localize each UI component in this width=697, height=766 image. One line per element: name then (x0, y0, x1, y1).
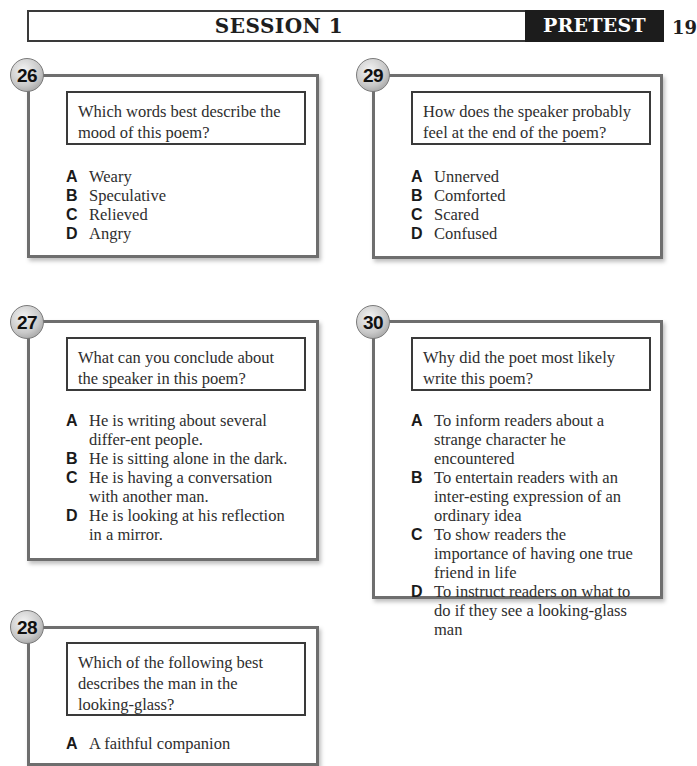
option-letter: B (66, 186, 78, 205)
answer-option-a[interactable]: AWeary (66, 167, 306, 186)
question-number-badge-30: 30 (356, 305, 390, 339)
option-letter: D (66, 506, 78, 525)
answer-options: AWeary BSpeculative CRelieved DAngry (66, 167, 306, 243)
question-prompt: What can you conclude about the speaker … (66, 337, 306, 391)
option-text: Speculative (89, 186, 166, 205)
option-letter: B (66, 449, 78, 468)
option-text: He is writing about several differ-ent p… (89, 411, 267, 449)
page-number: 19 (672, 17, 697, 38)
question-number-badge-29: 29 (356, 58, 390, 92)
option-letter: C (411, 525, 423, 544)
question-card-27: What can you conclude about the speaker … (27, 320, 319, 561)
option-letter: A (66, 167, 78, 186)
option-text: Weary (89, 167, 132, 186)
answer-option-b[interactable]: BHe is sitting alone in the dark. (66, 449, 301, 468)
answer-options: ATo inform readers about a strange chara… (411, 411, 643, 639)
answer-option-a[interactable]: AUnnerved (411, 167, 651, 186)
question-number-badge-28: 28 (10, 610, 44, 644)
answer-option-a[interactable]: AHe is writing about several differ-ent … (66, 411, 301, 449)
question-prompt: Which of the following best describes th… (66, 642, 306, 716)
question-card-29: How does the speaker probably feel at th… (372, 74, 663, 259)
option-text: Unnerved (434, 167, 499, 186)
option-text: Comforted (434, 186, 506, 205)
option-letter: A (66, 734, 78, 753)
option-text: Scared (434, 205, 479, 224)
question-card-26: Which words best describe the mood of th… (27, 74, 319, 258)
option-letter: A (411, 411, 423, 430)
session-title: SESSION 1 (29, 12, 529, 40)
question-number-badge-27: 27 (10, 305, 44, 339)
option-text: To show readers the importance of having… (434, 525, 633, 582)
option-text: A faithful companion (89, 734, 230, 753)
answer-option-c[interactable]: CTo show readers the importance of havin… (411, 525, 643, 582)
option-text: Confused (434, 224, 497, 243)
option-letter: D (411, 224, 423, 243)
question-card-28: Which of the following best describes th… (27, 626, 319, 766)
option-text: Relieved (89, 205, 148, 224)
question-prompt: How does the speaker probably feel at th… (411, 91, 651, 145)
option-text: He is sitting alone in the dark. (89, 449, 287, 468)
question-number-badge-26: 26 (10, 58, 44, 92)
option-letter: C (66, 468, 78, 487)
option-text: He is looking at his reflection in a mir… (89, 506, 285, 544)
option-letter: A (66, 411, 78, 430)
option-letter: C (66, 205, 78, 224)
answer-option-d[interactable]: DTo instruct readers on what to do if th… (411, 582, 643, 639)
answer-options: AA faithful companion (66, 734, 306, 753)
pretest-tag: PRETEST (525, 10, 664, 42)
answer-options: AUnnerved BComforted CScared DConfused (411, 167, 651, 243)
answer-option-b[interactable]: BTo entertain readers with an inter-esti… (411, 468, 643, 525)
answer-option-d[interactable]: DHe is looking at his reflection in a mi… (66, 506, 301, 544)
question-card-30: Why did the poet most likely write this … (372, 320, 663, 599)
option-text: To inform readers about a strange charac… (434, 411, 604, 468)
option-text: To entertain readers with an inter-estin… (434, 468, 621, 525)
option-text: He is having a conversation with another… (89, 468, 272, 506)
option-letter: D (411, 582, 423, 601)
answer-option-a[interactable]: AA faithful companion (66, 734, 306, 753)
answer-option-c[interactable]: CRelieved (66, 205, 306, 224)
answer-option-c[interactable]: CHe is having a conversation with anothe… (66, 468, 301, 506)
answer-option-a[interactable]: ATo inform readers about a strange chara… (411, 411, 643, 468)
option-text: Angry (89, 224, 131, 243)
option-letter: B (411, 468, 423, 487)
question-prompt: Why did the poet most likely write this … (411, 337, 651, 391)
option-text: To instruct readers on what to do if the… (434, 582, 630, 639)
option-letter: D (66, 224, 78, 243)
answer-option-b[interactable]: BSpeculative (66, 186, 306, 205)
option-letter: B (411, 186, 423, 205)
option-letter: C (411, 205, 423, 224)
answer-option-d[interactable]: DConfused (411, 224, 651, 243)
answer-option-c[interactable]: CScared (411, 205, 651, 224)
option-letter: A (411, 167, 423, 186)
answer-option-d[interactable]: DAngry (66, 224, 306, 243)
answer-options: AHe is writing about several differ-ent … (66, 411, 301, 544)
question-prompt: Which words best describe the mood of th… (66, 91, 306, 145)
answer-option-b[interactable]: BComforted (411, 186, 651, 205)
session-header: SESSION 1 PRETEST (27, 10, 664, 42)
